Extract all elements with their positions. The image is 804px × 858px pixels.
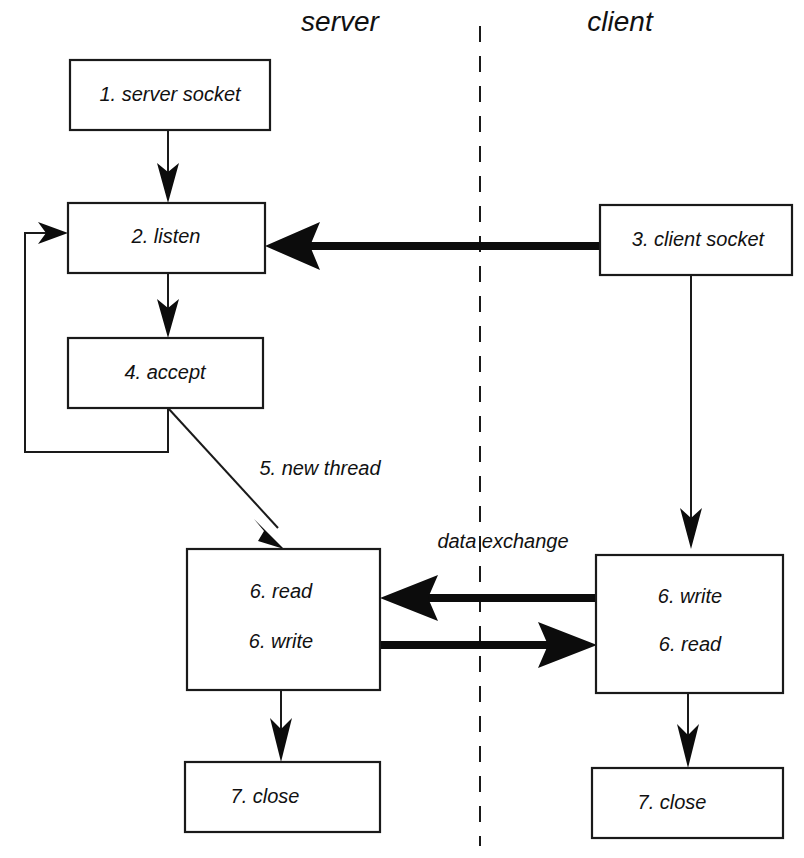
edge-listen-to-accept [157,273,179,338]
edge-server-readwrite-to-server-close [270,690,292,762]
edge-client-readwrite-to-client-close [677,693,699,768]
edge-client-socket-to-listen-connect [265,222,600,270]
node-client-close-label: 7. close [638,791,707,813]
node-server-socket-label: 1. server socket [99,83,242,105]
node-client-readwrite[interactable]: 6. write 6. read [596,555,783,693]
node-listen-label: 2. listen [131,225,201,247]
node-client-read-label: 6. read [659,633,722,655]
node-client-write-label: 6. write [658,585,722,607]
node-client-socket[interactable]: 3. client socket [600,205,792,275]
node-server-readwrite[interactable]: 6. read 6. write [187,549,380,690]
node-server-readwrite-rect [187,549,380,690]
lane-title-client: client [587,6,654,37]
edge-client-socket-to-client-readwrite [680,275,702,549]
node-client-socket-label: 3. client socket [632,228,766,250]
node-client-close[interactable]: 7. close [592,768,783,838]
node-accept[interactable]: 4. accept [68,338,263,408]
socket-flow-diagram: server client 5. new thread [0,0,804,858]
node-server-socket[interactable]: 1. server socket [70,60,270,130]
edge-server-socket-to-listen [157,130,179,203]
node-accept-label: 4. accept [124,361,207,383]
node-server-read-label: 6. read [250,580,313,602]
lane-title-server: server [301,6,380,37]
node-client-readwrite-rect [596,555,783,693]
node-server-close-label: 7. close [231,785,300,807]
edge-client-write-to-server-read [380,575,596,621]
edge-label-new-thread: 5. new thread [259,457,381,479]
node-listen[interactable]: 2. listen [68,203,265,273]
node-server-write-label: 6. write [249,630,313,652]
node-server-close[interactable]: 7. close [185,762,380,832]
edge-label-data-exchange: data exchange [437,530,568,552]
diagram-canvas: server client 5. new thread [0,0,804,858]
edge-server-write-to-client-read [378,622,597,668]
